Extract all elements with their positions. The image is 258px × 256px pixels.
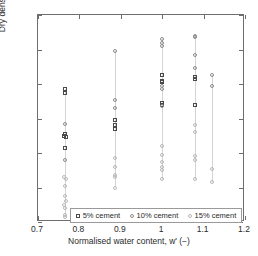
legend-item[interactable]: 10% cement — [130, 211, 179, 220]
legend-item[interactable]: 5% cement — [76, 211, 121, 220]
data-point — [113, 165, 117, 169]
data-point — [193, 103, 197, 107]
y-tick-mark — [38, 84, 42, 85]
data-point — [193, 53, 197, 57]
x-tick-label: 0.9 — [114, 224, 126, 234]
data-point — [113, 98, 117, 102]
data-point — [160, 153, 164, 157]
x-tick-mark — [245, 216, 246, 220]
y-axis-label: Dry density (kg/m3) — [0, 0, 7, 56]
circle-marker-icon — [188, 214, 192, 218]
x-tick-label: 1.1 — [197, 224, 209, 234]
legend: 5% cement10% cement15% cement — [70, 208, 242, 223]
data-point — [193, 35, 197, 39]
data-point — [113, 156, 117, 160]
data-point — [63, 91, 67, 95]
x-tick-label: 0.7 — [31, 224, 43, 234]
data-point — [63, 194, 67, 198]
data-point — [210, 180, 214, 184]
data-point — [160, 168, 164, 172]
data-point — [210, 73, 214, 77]
data-point — [113, 186, 117, 190]
data-point — [160, 87, 164, 91]
data-point — [160, 177, 164, 181]
data-point — [193, 123, 197, 127]
stem-line — [162, 39, 163, 179]
data-point — [160, 104, 164, 108]
square-marker-icon — [76, 214, 80, 218]
data-point — [210, 84, 214, 88]
circle-marker-icon — [130, 214, 134, 218]
x-tick-mark — [245, 15, 246, 19]
y-axis-label-text: Dry density (kg/m — [0, 0, 7, 32]
data-point — [63, 146, 67, 150]
y-tick-mark — [239, 153, 243, 154]
x-tick-mark — [79, 15, 80, 19]
y-tick-mark — [38, 50, 42, 51]
data-point — [113, 106, 117, 110]
y-tick-mark — [239, 84, 243, 85]
data-point — [160, 44, 164, 48]
legend-item[interactable]: 15% cement — [188, 211, 237, 220]
data-point — [113, 118, 117, 122]
data-point — [63, 206, 67, 210]
x-tick-mark — [38, 15, 39, 19]
x-tick-mark — [121, 15, 122, 19]
legend-label: 5% cement — [83, 211, 121, 220]
y-tick-mark — [38, 222, 42, 223]
data-point — [63, 158, 67, 162]
y-tick-mark — [38, 153, 42, 154]
data-point — [160, 144, 164, 148]
data-point — [193, 130, 197, 134]
legend-label: 15% cement — [195, 211, 237, 220]
data-point — [113, 127, 117, 131]
y-tick-mark — [239, 15, 243, 16]
x-tick-mark — [38, 216, 39, 220]
legend-label: 10% cement — [137, 211, 179, 220]
data-point — [113, 49, 117, 53]
data-point — [63, 184, 67, 188]
x-tick-label: 1.2 — [238, 224, 250, 234]
y-tick-mark — [239, 119, 243, 120]
data-point — [160, 73, 164, 77]
x-tick-mark — [162, 15, 163, 19]
data-point — [63, 122, 67, 126]
data-point — [193, 77, 197, 81]
y-tick-mark — [38, 119, 42, 120]
x-tick-mark — [204, 15, 205, 19]
data-point — [63, 215, 67, 219]
plot-area — [37, 14, 244, 221]
data-point — [64, 135, 68, 139]
data-point — [160, 160, 164, 164]
data-point — [210, 167, 214, 171]
y-tick-mark — [239, 188, 243, 189]
x-tick-label: 1 — [159, 224, 164, 234]
y-tick-mark — [239, 50, 243, 51]
data-point — [193, 177, 197, 181]
data-point — [193, 66, 197, 70]
x-axis-label: Normalised water content, w' (−) — [0, 236, 258, 246]
x-tick-label: 0.8 — [72, 224, 84, 234]
data-point — [64, 177, 68, 181]
y-tick-mark — [38, 188, 42, 189]
figure: 2000202020402060208021002120 0.70.80.911… — [0, 0, 258, 256]
data-point — [193, 158, 197, 162]
data-point — [113, 175, 117, 179]
